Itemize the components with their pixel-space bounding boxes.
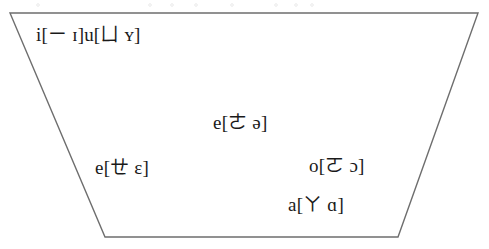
vowel-label-mid-front: e[ㄝ ɛ] (95, 158, 149, 177)
vowel-label-low-back: a[ㄚ ɑ] (288, 195, 344, 214)
vowel-label-high-front: i[ㄧ ɪ]u[ㄩ ʏ] (36, 25, 141, 44)
vowel-label-mid-central: e[ㄜ ə] (213, 113, 267, 132)
vowel-trapezoid-figure: i[ㄧ ɪ]u[ㄩ ʏ] e[ㄜ ə] e[ㄝ ɛ] o[ㄛ ɔ] a[ㄚ ɑ] (0, 0, 489, 249)
vowel-label-mid-back: o[ㄛ ɔ] (309, 156, 365, 175)
